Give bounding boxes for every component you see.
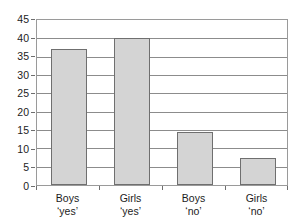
y-axis-label-0: 0 [2, 181, 29, 192]
y-axis-label-30: 30 [2, 70, 29, 81]
x-axis-category-boys-yes: Boys ‘yes’ [36, 192, 99, 218]
y-axis-tick-15 [31, 130, 35, 131]
bar-chart-figure: 45 40 35 30 25 20 15 10 5 0 [0, 0, 301, 223]
y-axis-label-10: 10 [2, 144, 29, 155]
x-axis-category-boys-no: Boys ‘no’ [162, 192, 225, 218]
y-axis-tick-30 [31, 75, 35, 76]
x-axis-category-boys-no-line2: ‘no’ [162, 205, 225, 218]
x-axis-tick-3 [225, 186, 226, 190]
y-axis-label-20: 20 [2, 107, 29, 118]
bar-boys-yes [51, 49, 87, 185]
x-axis-category-boys-yes-line1: Boys [36, 192, 99, 205]
bar-boys-no [177, 132, 213, 185]
x-axis-tick-0 [36, 186, 37, 190]
y-axis-tick-5 [31, 167, 35, 168]
y-axis-label-35: 35 [2, 51, 29, 62]
x-axis-category-girls-no-line2: ‘no’ [225, 205, 288, 218]
x-axis-tick-1 [99, 186, 100, 190]
x-axis-category-girls-yes-line2: ‘yes’ [99, 205, 162, 218]
y-axis-tick-20 [31, 112, 35, 113]
y-axis-label-15: 15 [2, 125, 29, 136]
y-axis-tick-45 [31, 19, 35, 20]
bar-girls-no [240, 158, 276, 186]
y-axis-tick-40 [31, 38, 35, 39]
y-axis-tick-35 [31, 56, 35, 57]
y-axis-tick-10 [31, 149, 35, 150]
y-axis-label-45: 45 [2, 14, 29, 25]
gridline-40 [37, 38, 287, 39]
x-axis-tick-2 [162, 186, 163, 190]
x-axis-tick-4 [287, 186, 288, 190]
y-axis-label-25: 25 [2, 88, 29, 99]
x-axis-category-girls-no-line1: Girls [225, 192, 288, 205]
x-axis-category-girls-no: Girls ‘no’ [225, 192, 288, 218]
x-axis-category-girls-yes: Girls ‘yes’ [99, 192, 162, 218]
y-axis-tick-0 [31, 186, 35, 187]
y-axis-label-40: 40 [2, 33, 29, 44]
x-axis-category-boys-yes-line2: ‘yes’ [36, 205, 99, 218]
plot-area [36, 19, 288, 186]
bar-girls-yes [114, 38, 150, 185]
y-axis-tick-25 [31, 93, 35, 94]
x-axis-category-girls-yes-line1: Girls [99, 192, 162, 205]
y-axis-label-5: 5 [2, 162, 29, 173]
x-axis-category-boys-no-line1: Boys [162, 192, 225, 205]
